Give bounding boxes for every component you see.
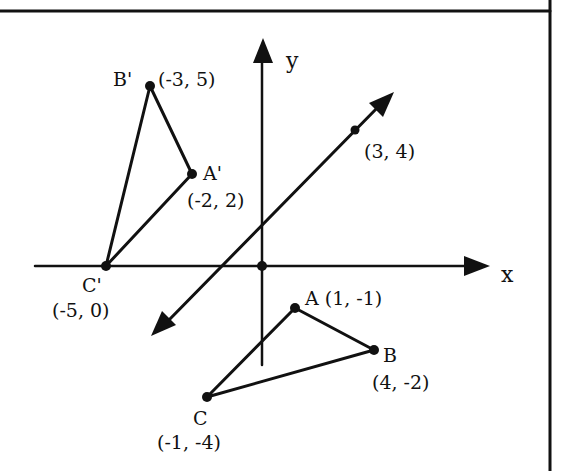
vertex-b-prime [145, 81, 155, 91]
origin-point [257, 261, 267, 271]
vertex-a-prime-coords: (-2, 2) [187, 189, 245, 211]
triangle-a-prime-b-prime-c-prime [106, 86, 192, 266]
vertex-c-name: C [193, 407, 208, 429]
coordinate-reflection-diagram: x y (3, 4) A (1, -1) B (4, -2) C (-1, -4… [0, 0, 564, 471]
vertex-c-prime [101, 261, 111, 271]
y-axis-label: y [285, 48, 299, 73]
vertex-a-prime-name: A' [202, 162, 222, 184]
vertex-b-prime-coords: (-3, 5) [158, 68, 216, 90]
vertex-b [369, 345, 379, 355]
vertex-a [290, 303, 300, 313]
x-axis-arrowhead-icon [464, 256, 490, 276]
vertex-b-prime-name: B' [113, 68, 132, 90]
y-axis-arrowhead-icon [253, 38, 273, 63]
vertex-a-label: A (1, -1) [304, 287, 382, 309]
vertex-c-prime-coords: (-5, 0) [52, 299, 110, 321]
vertex-c [202, 392, 212, 402]
line-point-label: (3, 4) [364, 140, 415, 162]
vertex-a-prime [187, 169, 197, 179]
x-axis-label: x [501, 262, 514, 287]
vertex-b-name: B [383, 344, 397, 366]
triangle-abc [207, 308, 374, 397]
line-point-3-4 [351, 126, 360, 135]
vertex-c-prime-name: C' [82, 274, 102, 296]
vertex-c-coords: (-1, -4) [157, 431, 221, 453]
vertex-b-coords: (4, -2) [372, 371, 430, 393]
y-axis [253, 38, 273, 365]
